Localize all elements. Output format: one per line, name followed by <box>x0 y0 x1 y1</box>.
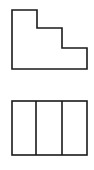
diagram-canvas <box>0 0 94 170</box>
projection-diagram <box>0 0 94 170</box>
top-view-outline <box>12 101 87 155</box>
front-view-stepped-outline <box>12 10 87 69</box>
top-view <box>12 101 87 155</box>
